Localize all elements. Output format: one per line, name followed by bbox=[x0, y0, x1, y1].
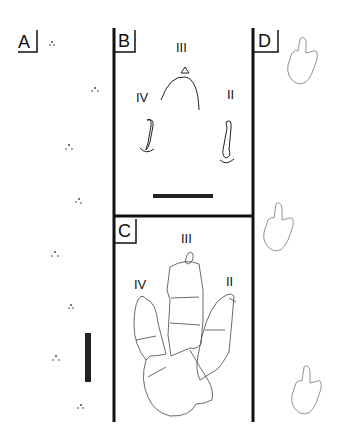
digit-iii-label-c: III bbox=[181, 231, 192, 246]
footprint-outline-d2 bbox=[264, 203, 294, 251]
digit-iv-label-b: IV bbox=[136, 90, 149, 105]
digit-ii-label-c: II bbox=[226, 274, 233, 289]
scale-bar-b bbox=[153, 194, 213, 198]
footprint-outline-c bbox=[134, 252, 236, 416]
digit-iii-label-b: III bbox=[176, 40, 187, 55]
panel-d-letter: D bbox=[258, 31, 271, 51]
footprint-outline-d3 bbox=[292, 366, 322, 414]
digit-iv-label-c: IV bbox=[134, 277, 147, 292]
panel-b-letter: B bbox=[118, 31, 130, 51]
scale-bar-a bbox=[85, 333, 91, 382]
footprint-sketch-b bbox=[140, 67, 234, 163]
trackway-footprints bbox=[49, 41, 99, 409]
panel-b-label: B bbox=[114, 30, 135, 52]
figure-canvas: A B III IV II C III bbox=[0, 0, 341, 438]
panel-a-label: A bbox=[18, 30, 37, 52]
panel-c-label: C bbox=[114, 219, 136, 243]
panel-d-label: D bbox=[253, 30, 278, 52]
footprint-outline-d1 bbox=[288, 37, 318, 83]
panel-a-letter: A bbox=[18, 32, 30, 52]
panel-c-letter: C bbox=[118, 221, 131, 241]
digit-ii-label-b: II bbox=[227, 87, 234, 102]
